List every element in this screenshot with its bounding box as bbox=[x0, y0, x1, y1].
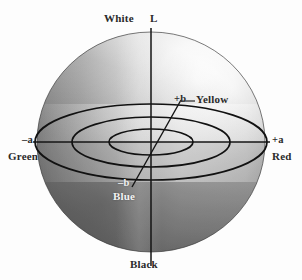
label-plus-b: +b bbox=[174, 94, 186, 105]
label-black: Black bbox=[130, 259, 158, 270]
label-green: Green bbox=[8, 151, 38, 162]
label-red: Red bbox=[272, 151, 292, 162]
cielab-sphere-figure: White L Black –a Green +a Red +b Yellow … bbox=[0, 0, 302, 280]
label-yellow: Yellow bbox=[196, 94, 228, 105]
label-minus-a: –a bbox=[22, 135, 33, 146]
cielab-sphere-graphic bbox=[0, 0, 302, 280]
label-blue: Blue bbox=[113, 191, 135, 202]
label-minus-b: –b bbox=[118, 178, 130, 189]
label-l-axis: L bbox=[150, 13, 158, 24]
label-plus-a: +a bbox=[272, 135, 284, 146]
label-white: White bbox=[104, 13, 134, 24]
